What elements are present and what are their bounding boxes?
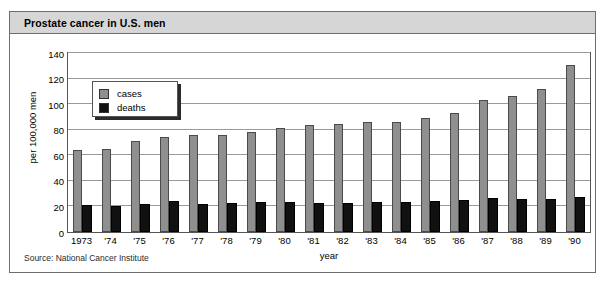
bar-deaths — [430, 201, 439, 232]
x-axis-tick-label: '84 — [386, 235, 415, 246]
figure-title-bar: Prostate cancer in U.S. men — [10, 12, 595, 34]
y-axis-tick-label: 80 — [24, 126, 64, 136]
x-axis-tick-label: '80 — [270, 235, 299, 246]
bar-deaths — [401, 202, 410, 232]
bar-cases — [334, 124, 343, 232]
x-axis-tick-labels: 1973'74'75'76'77'78'79'80'81'82'83'84'85… — [67, 235, 591, 251]
y-axis-tick-label: 20 — [24, 203, 64, 213]
x-axis-tick-label: '87 — [473, 235, 502, 246]
gray-square-icon — [99, 89, 109, 99]
bar-group — [189, 53, 207, 232]
bar-cases — [73, 150, 82, 232]
x-axis-tick-label: '90 — [560, 235, 589, 246]
x-axis-tick-label: '82 — [328, 235, 357, 246]
bar-cases — [537, 89, 546, 232]
bar-cases — [189, 135, 198, 232]
x-axis-tick-label: '78 — [212, 235, 241, 246]
x-axis-tick-label: '88 — [502, 235, 531, 246]
bar-cases — [566, 65, 575, 232]
bar-cases — [102, 149, 111, 232]
bar-cases — [276, 128, 285, 232]
source-note: Source: National Cancer Institute — [24, 253, 149, 263]
x-axis-tick-label: '81 — [299, 235, 328, 246]
bar-deaths — [488, 198, 497, 232]
x-axis-tick-label: '77 — [183, 235, 212, 246]
y-axis-tick-label: 0 — [24, 229, 64, 239]
bar-cases — [247, 132, 256, 232]
bar-cases — [421, 118, 430, 232]
bar-deaths — [111, 206, 120, 232]
x-axis-tick-label: 1973 — [67, 235, 96, 246]
bar-deaths — [314, 203, 323, 232]
legend-label: deaths — [117, 102, 146, 113]
bar-group — [247, 53, 265, 232]
bar-group — [131, 53, 149, 232]
bar-group — [421, 53, 439, 232]
y-axis-tick-label: 120 — [24, 75, 64, 85]
bars-layer — [68, 53, 590, 232]
bar-deaths — [198, 204, 207, 232]
bar-deaths — [546, 199, 555, 232]
bar-deaths — [459, 200, 468, 232]
black-square-icon — [99, 103, 109, 113]
bar-group — [102, 53, 120, 232]
chart-legend: casesdeaths — [92, 81, 178, 117]
bar-deaths — [169, 201, 178, 232]
bar-group — [479, 53, 497, 232]
x-axis-tick-label: '75 — [125, 235, 154, 246]
x-axis-tick-label: '85 — [415, 235, 444, 246]
x-axis-tick-label: '76 — [154, 235, 183, 246]
legend-label: cases — [117, 88, 142, 99]
bar-deaths — [227, 203, 236, 232]
x-axis-tick-label: '89 — [531, 235, 560, 246]
x-axis-tick-label: '83 — [357, 235, 386, 246]
bar-group — [276, 53, 294, 232]
x-axis-tick-label: '86 — [444, 235, 473, 246]
bar-group — [334, 53, 352, 232]
bar-cases — [131, 141, 140, 232]
bar-group — [160, 53, 178, 232]
figure-panel: Prostate cancer in U.S. men per 100,000 … — [9, 11, 596, 273]
bar-deaths — [82, 205, 91, 232]
bar-deaths — [256, 202, 265, 232]
bar-deaths — [140, 204, 149, 232]
bar-group — [450, 53, 468, 232]
bar-deaths — [285, 202, 294, 232]
bar-group — [566, 53, 584, 232]
y-axis-tick-label: 60 — [24, 152, 64, 162]
bar-cases — [305, 125, 314, 232]
plot-area: casesdeaths — [67, 52, 591, 233]
bar-cases — [218, 135, 227, 232]
x-axis-tick-label: '74 — [96, 235, 125, 246]
y-axis-tick-label: 100 — [24, 101, 64, 111]
bar-cases — [479, 100, 488, 232]
bar-group — [508, 53, 526, 232]
bar-group — [305, 53, 323, 232]
figure-title: Prostate cancer in U.S. men — [24, 17, 166, 29]
y-axis-tick-label: 40 — [24, 177, 64, 187]
chart-body: per 100,000 men 020406080100120140 cases… — [10, 34, 595, 272]
bar-group — [392, 53, 410, 232]
bar-group — [363, 53, 381, 232]
y-axis-tick-labels: 020406080100120140 — [20, 52, 64, 233]
bar-cases — [363, 122, 372, 232]
bar-cases — [160, 137, 169, 232]
bar-group — [218, 53, 236, 232]
bar-cases — [508, 96, 517, 232]
bar-group — [537, 53, 555, 232]
y-axis-tick-label: 140 — [24, 50, 64, 60]
bar-group — [73, 53, 91, 232]
bar-deaths — [343, 203, 352, 232]
bar-cases — [392, 122, 401, 232]
bar-deaths — [575, 197, 584, 232]
bar-deaths — [372, 202, 381, 232]
x-axis-tick-label: '79 — [241, 235, 270, 246]
bar-deaths — [517, 199, 526, 232]
bar-cases — [450, 113, 459, 232]
